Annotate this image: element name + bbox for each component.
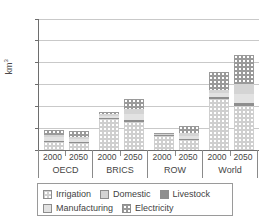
legend-item-domestic: Domestic [100,190,151,199]
bar-oecd-2050 [69,131,89,150]
bar-segment-electricity [124,99,144,109]
x-axis-group-label: OECD [39,166,92,175]
x-axis-year-label: 2000 [43,153,62,162]
bar-segment-irrigation [44,142,64,150]
chart-figure: km3 0100020003000400050006000 20002050OE… [0,0,264,222]
x-axis-year-label: 2050 [124,153,143,162]
bar-world-2000 [209,72,229,150]
legend-label: Electricity [135,204,174,213]
bar-segment-irrigation [179,140,199,150]
legend-swatch-livestock [160,190,169,199]
x-axis-year-label: 2000 [98,153,117,162]
x-axis-year-label: 2000 [208,153,227,162]
x-axis-group-label: BRICS [93,166,147,175]
legend-swatch-electricity [122,204,131,213]
chart-legend: IrrigationDomesticLivestock Manufacturin… [37,183,233,216]
x-axis-year-label: 2000 [153,153,172,162]
x-axis-minor-tick [230,151,231,156]
x-axis-group-brics: 20002050BRICS [93,150,148,178]
x-axis-group-label: World [203,166,257,175]
y-axis-tick [35,128,39,129]
x-axis-year-label: 2050 [179,153,198,162]
plot-area: 0100020003000400050006000 [38,19,259,151]
x-axis-year-label: 2050 [234,153,253,162]
bar-oecd-2000 [44,130,64,150]
legend-swatch-domestic [100,190,109,199]
bar-segment-irrigation [209,99,229,150]
legend-item-electricity: Electricity [122,204,174,213]
legend-swatch-irrigation [43,190,52,199]
legend-row-2: ManufacturingElectricity [43,201,228,215]
y-axis-label: km3 [3,61,14,75]
legend-item-irrigation: Irrigation [43,190,91,199]
bar-segment-irrigation [234,106,254,150]
bar-world-2050 [234,31,254,150]
x-axis-minor-tick [175,151,176,156]
bar-segment-irrigation [99,119,119,150]
bar-segment-manufacturing [234,94,254,103]
x-axis-group-label: ROW [148,166,202,175]
x-axis-group-row: 20002050ROW [148,150,203,178]
y-axis-tick [35,106,39,107]
legend-label: Livestock [173,190,211,199]
x-axis-group-world: 20002050World [203,150,258,178]
x-axis: 20002050OECD20002050BRICS20002050ROW2000… [38,150,258,178]
legend-row-1: IrrigationDomesticLivestock [43,187,228,201]
gridline [39,62,259,63]
legend-label: Manufacturing [56,204,113,213]
x-axis-group-oecd: 20002050OECD [38,150,93,178]
legend-label: Irrigation [56,190,91,199]
bar-segment-electricity [209,72,229,89]
bar-segment-irrigation [124,122,144,150]
y-axis-tick [35,62,39,63]
x-axis-minor-tick [120,151,121,156]
gridline [39,40,259,41]
bar-row-2000 [154,133,174,150]
bar-segment-irrigation [154,136,174,150]
y-axis-tick [35,40,39,41]
bar-segment-electricity [234,55,254,85]
legend-swatch-manufacturing [43,204,52,213]
gridline [39,19,259,20]
bar-brics-2000 [99,112,119,150]
legend-item-livestock: Livestock [160,190,211,199]
bar-segment-electricity [179,126,199,133]
bar-segment-domestic [234,84,254,93]
legend-label: Domestic [113,190,151,199]
bar-segment-irrigation [69,143,89,150]
legend-item-manufacturing: Manufacturing [43,204,113,213]
y-axis-tick [35,84,39,85]
x-axis-minor-tick [65,151,66,156]
y-axis-tick [35,19,39,20]
x-axis-year-label: 2050 [69,153,88,162]
bar-brics-2050 [124,79,144,150]
bar-row-2050 [179,122,199,150]
